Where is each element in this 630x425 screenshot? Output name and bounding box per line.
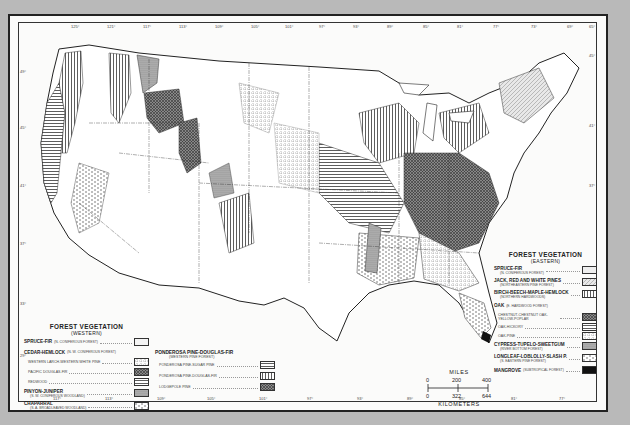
legend-item: PONDEROSA PINE-SUGAR PINE — [155, 359, 275, 370]
swatch-dotted-grid — [582, 332, 597, 340]
legend-item: OAK (E. HARDWOOD FOREST) — [494, 300, 597, 311]
legend-item: OAK-HICKORY — [494, 322, 597, 331]
legend-eastern-title: FOREST VEGETATION — [494, 251, 597, 258]
legend-item: CEDAR-HEMLOCK (N. W. CONIFEROUS FOREST) — [24, 347, 149, 357]
swatch-solid-black — [582, 366, 597, 374]
lon-tick-bottom: 89° — [407, 396, 413, 401]
legend-item: PACIFIC DOUGLAS-FIR — [24, 367, 149, 377]
swatch-dark-crosshatch — [260, 383, 275, 391]
lon-tick-top: 97° — [319, 24, 325, 29]
legend-item: JACK, RED AND WHITE PINES(NORTHEASTERN P… — [494, 276, 597, 288]
lat-tick-right: 41° — [589, 123, 595, 128]
lon-tick-bottom: 81° — [511, 396, 517, 401]
lon-tick-bottom: 101° — [259, 396, 267, 401]
swatch-dotted-grid — [134, 358, 149, 366]
scale-line — [424, 384, 494, 392]
lon-tick-top: 77° — [493, 24, 499, 29]
lat-tick-right: 45° — [589, 53, 595, 58]
swatch-horizontal-lines — [582, 323, 597, 331]
lat-tick-right: 37° — [589, 183, 595, 188]
lat-tick-left: 45° — [20, 125, 26, 130]
lon-tick-bottom: 77° — [559, 396, 565, 401]
lat-tick-left: 33° — [20, 301, 26, 306]
legend-item: CYPRESS-TUPELO-SWEETGUM(RIVER BOTTOM FOR… — [494, 340, 597, 352]
swatch-crosshatch — [134, 368, 149, 376]
legend-item: OAK-PINE — [494, 331, 597, 340]
legend-item: CHAPARRAL (S. A. BROADLEAVED WOODLAND) — [24, 399, 149, 412]
legend-item: SPRUCE-FIR (N. CONIFEROUS FOREST) — [24, 336, 149, 347]
lon-tick-top: 85° — [423, 24, 429, 29]
scale-bar: MILES 0 200 400 0 322 644 KILOMETERS — [424, 369, 494, 375]
legend-item: PONDEROSA PINE-DOUGLAS-FIR — [155, 370, 275, 381]
legend-item: MANGROVE (SUBTROPICAL FOREST) — [494, 364, 597, 376]
swatch-dense-stipple — [134, 389, 149, 397]
swatch-diagonal-light — [582, 278, 597, 286]
swatch-plain-light — [134, 338, 149, 346]
legend-item: REDWOOD — [24, 377, 149, 387]
swatch-plain-light — [582, 266, 597, 274]
lon-tick-top: 121° — [107, 24, 115, 29]
swatch-horizontal-lines — [134, 378, 149, 386]
swatch-dark-crosshatch — [582, 313, 597, 321]
legend-item: WESTERN LARCH-WESTERN WHITE PINE — [24, 357, 149, 367]
map-sheet: 125° 121° 117° 113° 109° 105° 101° 97° 9… — [8, 14, 608, 412]
legend-item: LODGEPOLE PINE — [155, 381, 275, 392]
lon-tick-top: 65° — [589, 24, 595, 29]
map-frame: 125° 121° 117° 113° 109° 105° 101° 97° 9… — [18, 22, 597, 402]
lon-tick-bottom: 105° — [207, 396, 215, 401]
scale-miles-label: MILES — [424, 369, 494, 375]
lon-tick-top: 117° — [143, 24, 151, 29]
lon-tick-top: 109° — [215, 24, 223, 29]
lon-tick-top: 93° — [353, 24, 359, 29]
legend-western-title: FOREST VEGETATION — [24, 323, 149, 330]
lat-tick-left: 37° — [20, 241, 26, 246]
lon-tick-top: 89° — [387, 24, 393, 29]
swatch-vertical-lines — [260, 372, 275, 380]
lon-tick-top: 73° — [531, 24, 537, 29]
lon-tick-top: 105° — [251, 24, 259, 29]
legend-item: CHESTNUT-CHESTNUT OAK-YELLOW-POPLAR — [494, 311, 597, 322]
lon-tick-top: 69° — [567, 24, 573, 29]
swatch-dense-stipple — [582, 342, 597, 350]
legend-item: BIRCH-BEECH-MAPLE-HEMLOCK(NORTHERN HARDW… — [494, 288, 597, 300]
legend-western: FOREST VEGETATION (WESTERN) SPRUCE-FIR (… — [24, 323, 149, 412]
lon-tick-bottom: 93° — [357, 396, 363, 401]
legend-item: LONGLEAF-LOBLOLLY-SLASH P.(S. EASTERN PI… — [494, 352, 597, 364]
swatch-dashes — [582, 354, 597, 362]
legend-item: PINYON-JUNIPER (S. W. CONIFEROUS WOODLAN… — [24, 387, 149, 399]
lat-tick-left: 41° — [20, 183, 26, 188]
swatch-horizontal-lines — [260, 361, 275, 369]
lon-tick-bottom: 109° — [157, 396, 165, 401]
lon-tick-top: 81° — [457, 24, 463, 29]
lon-tick-top: 125° — [71, 24, 79, 29]
lat-tick-left: 49° — [20, 69, 26, 74]
scale-km-label: KILOMETERS — [424, 401, 494, 407]
lon-tick-top: 101° — [285, 24, 293, 29]
legend-eastern: FOREST VEGETATION (EASTERN) SPRUCE-FIR(N… — [494, 251, 597, 376]
legend-item: SPRUCE-FIR(N. CONIFEROUS FOREST) — [494, 264, 597, 276]
lon-tick-top: 113° — [179, 24, 187, 29]
legend-ponderosa: PONDEROSA PINE-DOUGLAS-FIR (WESTERN PINE… — [155, 350, 275, 392]
lon-tick-bottom: 97° — [307, 396, 313, 401]
swatch-vertical-lines — [582, 290, 597, 298]
swatch-dashes — [134, 402, 149, 410]
